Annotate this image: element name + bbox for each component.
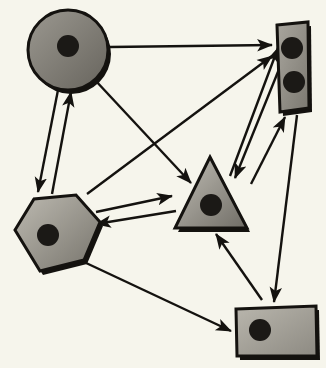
wide-rectangle-node-body[interactable] [236,306,317,356]
edge-hexagon-to-tall-rectangle[interactable] [87,56,272,194]
edge-tall-rectangle-to-wide-rectangle[interactable] [274,115,297,302]
edge-circle-to-triangle[interactable] [95,80,191,183]
tall-rectangle-node-dot-1 [281,37,303,59]
edge-circle-to-tall-rectangle[interactable] [110,45,272,47]
tall-rectangle-node[interactable] [277,22,309,112]
triangle-node-dot-1 [200,194,222,216]
hexagon-node-dot-1 [37,224,59,246]
tall-rectangle-node-dot-2 [283,71,305,93]
circle-node-dot-1 [57,35,79,57]
edge-hexagon-to-triangle[interactable] [96,196,172,212]
tall-rectangle-node-body[interactable] [277,22,309,112]
edge-triangle-to-hexagon[interactable] [96,211,176,224]
triangle-node-body[interactable] [175,157,247,228]
edge-wide-rectangle-to-triangle[interactable] [216,234,262,300]
circle-node[interactable] [28,10,108,90]
wide-rectangle-node[interactable] [236,306,317,356]
wide-rectangle-node-dot-1 [249,319,271,341]
edge-triangle-to-tall-rectangle[interactable] [230,48,278,176]
diagram-svg [0,0,326,368]
triangle-node[interactable] [175,157,247,228]
edge-hexagon-to-wide-rectangle[interactable] [84,262,231,331]
diagram-canvas [0,0,326,368]
